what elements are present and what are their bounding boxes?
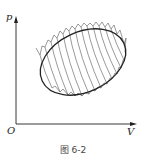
y-axis-label: p [6,12,12,22]
origin-label: O [7,126,15,136]
x-axis-label: V [127,127,134,137]
carnot-cycle-hatching [40,26,124,96]
reversible-cycle-ellipse [30,16,137,108]
pv-diagram-svg [0,0,146,165]
p-axis-arrow-icon [14,16,18,23]
figure-caption: 图 6-2 [0,143,146,156]
pv-diagram-figure: p V O 图 6-2 [0,0,146,165]
